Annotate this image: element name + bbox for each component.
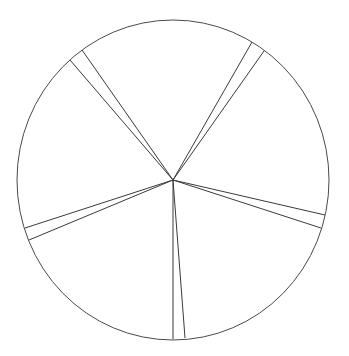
slice-boundary-line	[25, 180, 173, 228]
slice-boundary-line	[82, 50, 173, 180]
slice-boundary-line	[173, 42, 252, 180]
slice-boundary-line	[70, 60, 173, 180]
slice-boundary-line	[173, 180, 185, 338]
pie-slice-boundaries	[25, 42, 325, 339]
slice-boundary-line	[29, 180, 173, 240]
slice-boundary-line	[173, 180, 321, 228]
slice-boundary-line	[173, 51, 264, 180]
slice-boundary-line	[173, 180, 325, 215]
pie-chart	[0, 0, 349, 356]
